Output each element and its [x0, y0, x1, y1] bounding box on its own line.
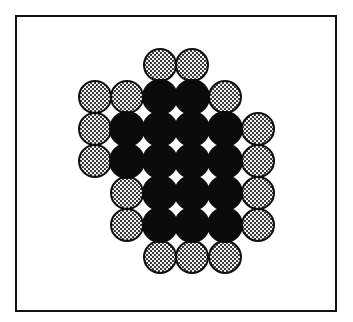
shell-circle — [111, 177, 143, 209]
core-circle — [174, 175, 210, 211]
core-circle — [142, 79, 178, 115]
shell-circle — [242, 209, 274, 241]
shell-circle — [176, 241, 208, 273]
core-circle — [207, 143, 243, 179]
shell-circle — [79, 113, 111, 145]
core-circle — [142, 207, 178, 243]
shell-circle — [176, 49, 208, 81]
core-circle — [109, 111, 145, 147]
core-circle — [174, 143, 210, 179]
core-circle — [207, 175, 243, 211]
core-circle — [142, 175, 178, 211]
shell-circle — [209, 81, 241, 113]
shell-circle — [144, 49, 176, 81]
core-circle — [174, 111, 210, 147]
core-circle — [207, 111, 243, 147]
shell-circle — [111, 81, 143, 113]
shell-circle — [242, 177, 274, 209]
shell-circle — [144, 241, 176, 273]
circle-cluster-diagram — [0, 0, 353, 322]
core-circle — [109, 143, 145, 179]
shell-circle — [242, 113, 274, 145]
core-circle — [174, 79, 210, 115]
core-circle — [174, 207, 210, 243]
core-circle — [142, 111, 178, 147]
core-circle — [207, 207, 243, 243]
core-circle — [142, 143, 178, 179]
shell-circle — [79, 145, 111, 177]
shell-circle — [79, 81, 111, 113]
shell-circle — [209, 241, 241, 273]
shell-circle — [111, 209, 143, 241]
shell-circle — [242, 145, 274, 177]
